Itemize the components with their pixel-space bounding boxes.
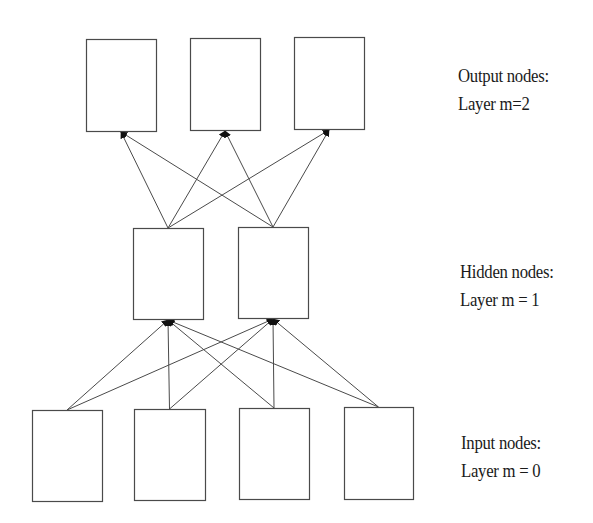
edge-input2-to-hidden0: [168, 320, 274, 408]
hidden-node-2: [239, 228, 309, 319]
hidden-layer-label: Hidden nodes: Layer m = 1: [460, 258, 554, 314]
hidden-layer-subtitle: Layer m = 1: [460, 286, 554, 314]
edge-hidden1-to-output2: [273, 130, 329, 227]
output-layer-subtitle: Layer m=2: [458, 90, 549, 118]
output-node-3: [295, 38, 365, 130]
output-layer-label: Output nodes: Layer m=2: [458, 62, 549, 118]
input-node-3: [240, 409, 310, 500]
input-node-4: [345, 408, 414, 500]
connection-edges: [67, 130, 379, 410]
edge-input3-to-hidden1: [273, 319, 379, 407]
edge-input0-to-hidden1: [67, 319, 273, 410]
input-layer-label: Input nodes: Layer m = 0: [461, 429, 541, 485]
output-node-2: [191, 39, 261, 131]
input-node-1: [33, 411, 103, 502]
input-layer-title: Input nodes:: [461, 429, 541, 457]
edge-input0-to-hidden0: [67, 320, 168, 410]
network-nodes: [33, 38, 414, 502]
output-layer-title: Output nodes:: [458, 62, 549, 90]
edge-hidden1-to-output1: [225, 131, 273, 227]
input-node-2: [135, 410, 206, 501]
hidden-node-1: [134, 229, 204, 320]
output-node-1: [87, 40, 157, 132]
input-layer-subtitle: Layer m = 0: [461, 457, 541, 485]
hidden-layer-title: Hidden nodes:: [460, 258, 554, 286]
